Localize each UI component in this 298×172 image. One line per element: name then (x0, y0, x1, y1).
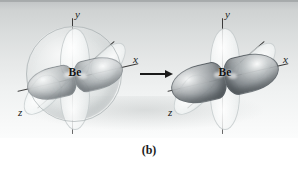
arrow-head (165, 70, 173, 78)
figure-caption: (b) (0, 144, 298, 156)
arrow-shaft (140, 73, 167, 75)
orbital-diagram-after: y x z Be (152, 4, 298, 134)
axis-label-y: y (225, 9, 230, 20)
axis-label-x: x (133, 54, 138, 65)
axis-label-y: y (75, 9, 80, 20)
atom-label-be: Be (210, 67, 240, 79)
transformation-arrow (140, 73, 173, 75)
panel-top-border (0, 0, 298, 2)
axis-label-z: z (168, 107, 172, 118)
orbital-diagram-before: y x z Be (2, 4, 152, 134)
atom-label-be: Be (60, 67, 90, 79)
figure-root: y x z Be y x z Be (b) (0, 0, 298, 172)
axis-label-z: z (18, 107, 22, 118)
axis-label-x: x (283, 54, 288, 65)
